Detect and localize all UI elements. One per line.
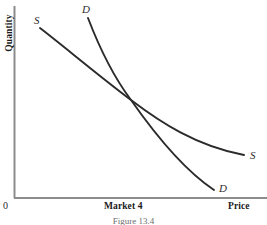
- plot-area: S D S D 0: [0, 0, 267, 225]
- demand-start-label: D: [81, 3, 90, 15]
- origin-label: 0: [3, 200, 8, 211]
- figure-caption: Figure 13.4: [0, 216, 267, 225]
- supply-curve: [40, 28, 244, 155]
- demand-end-label: D: [218, 182, 227, 194]
- supply-start-label: S: [34, 14, 40, 26]
- x-axis-title: Price: [228, 201, 250, 211]
- y-axis-title: Quantity: [4, 7, 14, 59]
- panel-label: Market 4: [104, 201, 143, 211]
- demand-curve: [88, 18, 214, 190]
- figure-container: S D S D 0 Quantity Market 4 Price Figure…: [0, 0, 267, 225]
- supply-end-label: S: [250, 149, 256, 161]
